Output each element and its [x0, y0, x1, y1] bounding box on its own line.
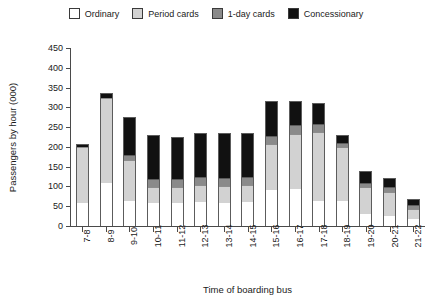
x-axis-label-slot: 7-8 [70, 234, 94, 276]
bar-slot [260, 48, 284, 226]
x-axis-label-slot: 15-16 [259, 234, 283, 276]
x-axis-tick-label: 9-10 [129, 227, 139, 245]
bar-segment [408, 209, 419, 220]
bar-segment [242, 185, 253, 202]
stacked-bar[interactable] [171, 137, 184, 226]
bar-segment [360, 172, 371, 183]
plot-area: 050100150200250300350400450 [70, 48, 425, 227]
stacked-bar[interactable] [312, 103, 325, 226]
x-axis-tick-label: 18-19 [342, 224, 352, 247]
bar-segment [172, 187, 183, 203]
stacked-bar[interactable] [218, 133, 231, 226]
bar-segment [360, 187, 371, 214]
bar-slot [165, 48, 189, 226]
stacked-bar[interactable] [265, 101, 278, 226]
stacked-bar[interactable] [289, 101, 302, 226]
bar-segment [172, 203, 183, 226]
legend-swatch-icon [288, 8, 299, 19]
y-axis-title: Passengers by hour (000) [6, 48, 20, 227]
x-axis-label-slot: 16-17 [283, 234, 307, 276]
x-axis-tick-label: 15-16 [271, 224, 281, 247]
bar-slot [213, 48, 237, 226]
chart-legend: OrdinaryPeriod cards1-day cardsConcessio… [0, 8, 432, 19]
x-axis-tick-label: 16-17 [295, 224, 305, 247]
bar-segment [290, 189, 301, 226]
x-axis-tick-label: 17-18 [319, 224, 329, 247]
x-axis-tick-label: 20-21 [390, 224, 400, 247]
x-axis-label-slot: 8-9 [94, 234, 118, 276]
bar-segment [77, 203, 88, 226]
y-axis-tick-label: 250 [48, 122, 63, 133]
bar-segment [290, 102, 301, 125]
x-axis-tick-label: 10-11 [153, 225, 163, 247]
bar-segment [384, 179, 395, 188]
y-axis-tick-label: 150 [48, 162, 63, 173]
y-axis-tick-label: 50 [53, 201, 63, 212]
legend-entry: Ordinary [69, 8, 120, 19]
y-axis-tick-label: 100 [48, 181, 63, 192]
stacked-bar[interactable] [407, 199, 420, 226]
bar-segment [195, 177, 206, 185]
y-axis-tick-label: 450 [48, 43, 63, 54]
stacked-bar[interactable] [336, 135, 349, 226]
stacked-bar[interactable] [76, 144, 89, 226]
bar-slot [401, 48, 425, 226]
bar-segment [148, 187, 159, 203]
bar-segment [290, 125, 301, 134]
x-axis-label-slot: 13-14 [212, 234, 236, 276]
stacked-bar[interactable] [194, 133, 207, 226]
x-axis-tick-label: 21-22 [413, 224, 423, 247]
bar-segment [337, 147, 348, 202]
legend-swatch-icon [69, 8, 80, 19]
stacked-bar[interactable] [383, 178, 396, 226]
bar-slot [378, 48, 402, 226]
y-axis-title-text: Passengers by hour (000) [8, 83, 19, 192]
y-axis-tick-label: 300 [48, 102, 63, 113]
x-axis-tick-label: 8-9 [106, 229, 116, 242]
bar-slot [307, 48, 331, 226]
stacked-bar[interactable] [241, 133, 254, 226]
bar-segment [266, 102, 277, 135]
x-axis-tick-label: 11-12 [177, 225, 187, 247]
stacked-bar[interactable] [147, 135, 160, 226]
y-axis-tick-label: 350 [48, 83, 63, 94]
bar-segment [242, 134, 253, 177]
legend-label: 1-day cards [228, 9, 275, 19]
bar-slot [354, 48, 378, 226]
bar-slot [236, 48, 260, 226]
x-axis-label-slot: 19-20 [354, 234, 378, 276]
stacked-bar[interactable] [123, 117, 136, 226]
x-axis-title: Time of boarding bus [70, 284, 425, 295]
bar-segment [195, 134, 206, 177]
bar-segment [313, 124, 324, 132]
bar-slot [331, 48, 355, 226]
legend-swatch-icon [212, 8, 223, 19]
bar-segment [219, 203, 230, 226]
x-axis-label-slot: 9-10 [117, 234, 141, 276]
bar-segment [124, 118, 135, 155]
x-axis-tick-label: 19-20 [366, 224, 376, 247]
bar-chart: OrdinaryPeriod cards1-day cardsConcessio… [0, 0, 432, 303]
x-axis-label-slot: 20-21 [378, 234, 402, 276]
bar-segment [101, 98, 112, 182]
stacked-bar[interactable] [359, 171, 372, 226]
legend-entry: Period cards [132, 8, 199, 19]
bar-segment [148, 203, 159, 226]
x-axis-label-slot: 18-19 [330, 234, 354, 276]
bar-slot [71, 48, 95, 226]
legend-entry: 1-day cards [212, 8, 275, 19]
legend-label: Ordinary [85, 9, 120, 19]
bar-slot [95, 48, 119, 226]
legend-label: Concessionary [304, 9, 364, 19]
bar-segment [337, 136, 348, 143]
bar-segment [124, 201, 135, 226]
bar-segment [219, 178, 230, 186]
legend-label: Period cards [148, 9, 199, 19]
bar-segment [242, 202, 253, 226]
bar-segment [172, 138, 183, 179]
x-axis-label-slot: 21-22 [401, 234, 425, 276]
bars-layer [71, 48, 425, 226]
bar-segment [219, 186, 230, 202]
bar-slot [283, 48, 307, 226]
stacked-bar[interactable] [100, 93, 113, 226]
